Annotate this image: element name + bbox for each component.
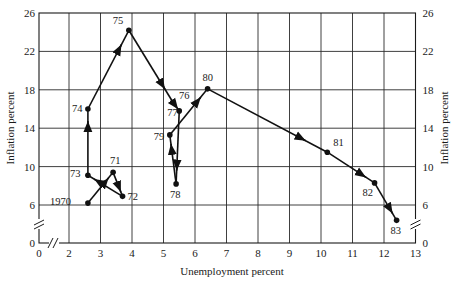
tick-labels: 0234567891011121306101418222606101418222…: [24, 7, 434, 259]
x-tick-label: 5: [161, 247, 167, 259]
y-tick-label-left: 0: [30, 237, 36, 249]
data-point-label: 73: [70, 168, 81, 179]
y-tick-label-right: 22: [423, 45, 434, 57]
data-point-label: 71: [110, 155, 121, 166]
direction-arrow-icon: [364, 176, 366, 178]
trajectory-segment: [129, 30, 173, 102]
data-point-label: 78: [170, 189, 181, 200]
axes: [34, 13, 421, 248]
axis-break-icon: [34, 219, 44, 229]
x-tick-label: 6: [192, 247, 198, 259]
direction-arrow-icon: [300, 138, 306, 141]
y-tick-label-right: 0: [423, 237, 429, 249]
y-tick-label-right: 14: [423, 122, 435, 134]
direction-arrow-icon: [94, 179, 96, 180]
trajectory-segment: [327, 152, 374, 183]
y-tick-label-left: 26: [24, 7, 36, 19]
x-tick-label: 11: [347, 247, 358, 259]
trajectory-segment: [375, 183, 397, 220]
x-tick-label: 13: [410, 247, 422, 259]
y-tick-label-left: 14: [24, 122, 36, 134]
y-tick-label-left: 22: [24, 45, 35, 57]
x-tick-label: 7: [224, 247, 230, 259]
x-tick-label: 2: [66, 247, 72, 259]
data-point: [325, 149, 331, 155]
y-tick-label-right: 6: [423, 199, 429, 211]
data-point: [372, 180, 378, 186]
phillips-curve-chart: 0234567891011121306101418222606101418222…: [0, 0, 455, 284]
y-tick-label-left: 10: [24, 161, 36, 173]
x-tick-label: 4: [129, 247, 135, 259]
data-point: [110, 170, 116, 176]
axis-break-icon: [48, 238, 59, 248]
direction-arrow-icon: [119, 44, 121, 48]
data-point: [167, 132, 173, 138]
x-tick-label: 10: [316, 247, 328, 259]
direction-arrow-icon: [199, 97, 201, 99]
chart-canvas: 0234567891011121306101418222606101418222…: [0, 0, 455, 284]
data-point-label: 83: [391, 225, 402, 236]
trajectory-segment: [88, 30, 129, 109]
x-axis-title: Unemployment percent: [180, 265, 284, 277]
y-tick-label-right: 10: [423, 161, 435, 173]
data-point-label: 75: [113, 15, 124, 26]
trajectory-segment: [170, 135, 176, 184]
gridlines: [39, 13, 416, 243]
y-tick-label-left: 6: [30, 199, 36, 211]
data-points: 197071727374757677787980818283: [50, 15, 401, 236]
data-point: [126, 27, 132, 33]
data-point: [85, 200, 91, 206]
data-point-label: 74: [72, 103, 83, 114]
data-point: [85, 172, 91, 178]
y-tick-label-left: 18: [24, 84, 36, 96]
trajectory-segment: [176, 111, 179, 184]
data-point-label: 82: [363, 187, 374, 198]
data-point: [394, 218, 400, 224]
direction-arrow-icon: [107, 178, 108, 180]
data-point: [170, 99, 176, 105]
x-tick-label: 8: [255, 247, 261, 259]
x-tick-label: 0: [36, 247, 42, 259]
x-tick-label: 12: [379, 247, 390, 259]
y-tick-label-right: 26: [423, 7, 435, 19]
direction-arrow-icon: [392, 212, 393, 214]
data-point-label: 76: [179, 90, 190, 101]
y-axis-title-left: Inflation percent: [4, 92, 16, 165]
data-point: [120, 194, 126, 200]
trajectory-segment: [208, 89, 328, 152]
y-axis-title-right: Inflation percent: [438, 92, 450, 165]
x-tick-label: 3: [98, 247, 104, 259]
data-point-label: 77: [167, 107, 178, 118]
data-point-label: 81: [333, 137, 344, 148]
data-point-label: 80: [203, 72, 214, 83]
data-point-label: 72: [128, 191, 139, 202]
data-point: [85, 106, 91, 112]
trajectory-segment: [88, 175, 123, 196]
data-point: [173, 181, 179, 187]
y-tick-label-right: 18: [423, 84, 435, 96]
data-point-label: 79: [154, 131, 165, 142]
data-point-label: 1970: [50, 196, 71, 207]
data-point: [205, 86, 211, 92]
axis-break-icon: [411, 219, 421, 229]
x-tick-label: 9: [287, 247, 293, 259]
